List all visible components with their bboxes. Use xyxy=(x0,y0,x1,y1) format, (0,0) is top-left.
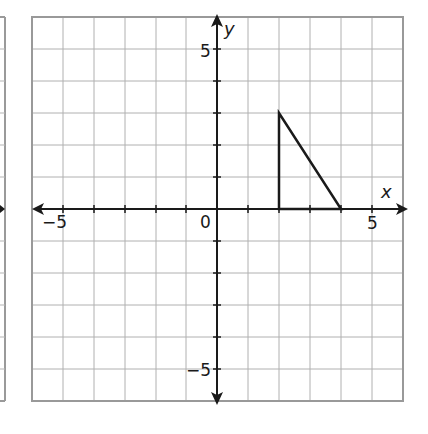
x-tick-label-5: 5 xyxy=(367,213,378,233)
y-tick-label-neg5: −5 xyxy=(186,360,211,380)
x-axis-label: x xyxy=(380,181,392,202)
origin-label: 0 xyxy=(200,212,211,232)
y-axis-label: y xyxy=(223,18,235,39)
coordinate-plane-figure: y x 5 −5 0 −5 5 xyxy=(0,0,428,434)
y-tick-label-5: 5 xyxy=(200,41,211,61)
x-axis xyxy=(32,203,408,215)
x-tick-label-neg5: −5 xyxy=(42,212,67,232)
partial-left-graph xyxy=(0,17,5,401)
